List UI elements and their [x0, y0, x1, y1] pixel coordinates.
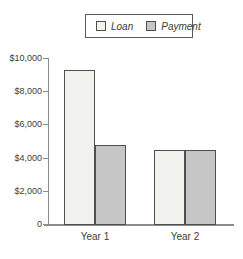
y-axis-tick-label: $10,000 — [2, 54, 42, 63]
y-axis-tick-label: $4,000 — [2, 154, 42, 163]
y-axis-tick — [43, 158, 48, 159]
bar-payment-year-1 — [95, 145, 126, 225]
bar-chart-figure: Loan Payment 0$2,000$4,000$6,000$8,000$1… — [0, 0, 243, 259]
bar-loan-year-2 — [154, 150, 185, 225]
y-axis-line — [48, 58, 49, 225]
y-axis-tick — [43, 91, 48, 92]
plot-area: 0$2,000$4,000$6,000$8,000$10,000Year 1Ye… — [0, 0, 243, 259]
y-axis-tick — [43, 124, 48, 125]
bar-payment-year-2 — [185, 150, 216, 225]
y-axis-tick-label: $6,000 — [2, 120, 42, 129]
bar-loan-year-1 — [64, 70, 95, 225]
x-axis-category-label: Year 1 — [63, 231, 127, 242]
y-axis-tick-label: 0 — [2, 220, 42, 229]
y-axis-tick-label: $8,000 — [2, 87, 42, 96]
y-axis-tick-label: $2,000 — [2, 187, 42, 196]
y-axis-tick — [43, 58, 48, 59]
y-axis-tick — [43, 224, 48, 225]
x-axis-category-label: Year 2 — [153, 231, 217, 242]
y-axis-tick — [43, 191, 48, 192]
